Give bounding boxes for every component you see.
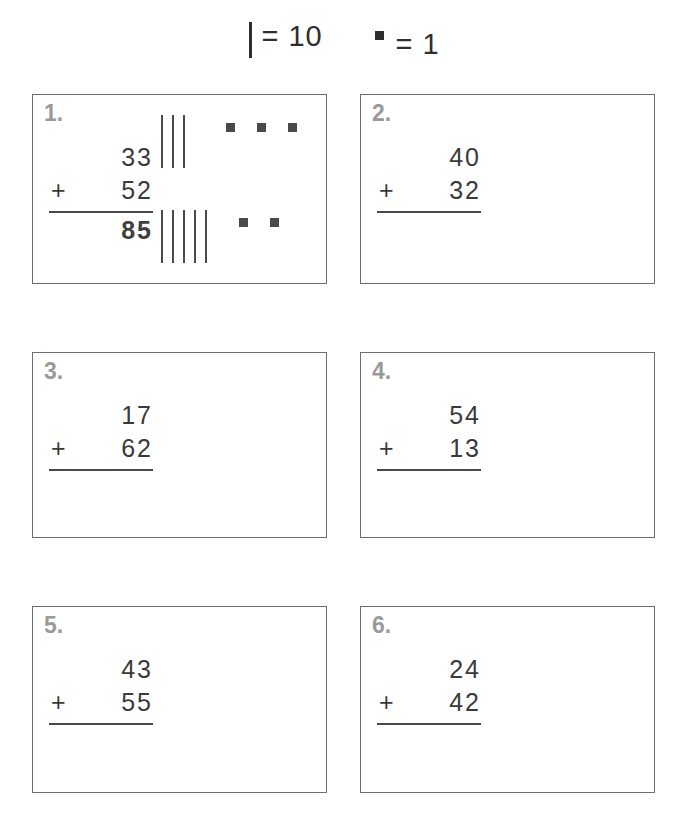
marks-row	[161, 115, 319, 187]
unit-square-icon	[226, 123, 235, 132]
plus-operator: +	[377, 176, 396, 205]
addend-row-top: 17	[49, 401, 153, 434]
second-addend: 52	[121, 176, 153, 205]
plus-operator: +	[377, 688, 396, 717]
addend-row-bottom: +13	[377, 434, 481, 467]
addend-row-top: 54	[377, 401, 481, 434]
problem-number-label: 6.	[372, 613, 391, 638]
problem-number-label: 2.	[372, 101, 391, 126]
tally-bar-icon	[161, 210, 163, 263]
unit-square-icon	[375, 31, 384, 40]
vertical-sum: 17+62	[49, 401, 153, 507]
first-addend: 24	[449, 655, 481, 684]
addend-row-bottom: +55	[49, 688, 153, 721]
legend-ones: = 1	[375, 22, 439, 59]
vertical-sum: 33+5285	[49, 143, 153, 249]
tally-bar-icon	[172, 115, 174, 168]
first-addend: 33	[121, 143, 153, 172]
tens-tally-group	[161, 115, 226, 168]
problem-box[interactable]: 1.33+5285	[32, 94, 327, 284]
vertical-sum: 43+55	[49, 655, 153, 761]
legend-ones-label: = 1	[395, 30, 439, 59]
tally-bar-icon	[205, 210, 207, 263]
vertical-sum: 54+13	[377, 401, 481, 507]
marks-row	[161, 210, 319, 282]
first-addend: 17	[121, 401, 153, 430]
addend-row-bottom: +52	[49, 176, 153, 209]
base-ten-marks	[161, 115, 319, 282]
tens-tally-group	[161, 210, 239, 263]
addend-row-top: 43	[49, 655, 153, 688]
sum-rule-line	[377, 469, 481, 471]
plus-operator: +	[49, 176, 68, 205]
sum-rule-line	[377, 211, 481, 213]
tally-bar-icon	[161, 115, 163, 168]
problem-box[interactable]: 4.54+13	[360, 352, 655, 538]
unit-square-icon	[288, 123, 297, 132]
addend-row-top: 40	[377, 143, 481, 176]
ones-unit-group	[239, 210, 301, 227]
second-addend: 62	[121, 434, 153, 463]
second-addend: 13	[449, 434, 481, 463]
vertical-sum: 24+42	[377, 655, 481, 761]
second-addend: 55	[121, 688, 153, 717]
tally-bar-icon	[183, 115, 185, 168]
first-addend: 54	[449, 401, 481, 430]
plus-operator: +	[49, 434, 68, 463]
unit-square-icon	[270, 218, 279, 227]
problem-box[interactable]: 6.24+42	[360, 606, 655, 793]
tally-bar-icon	[249, 22, 252, 58]
addend-row-bottom: +62	[49, 434, 153, 467]
problem-box[interactable]: 5.43+55	[32, 606, 327, 793]
sum-rule-line	[377, 723, 481, 725]
second-addend: 42	[449, 688, 481, 717]
second-addend: 32	[449, 176, 481, 205]
problem-box[interactable]: 2.40+32	[360, 94, 655, 284]
vertical-sum: 40+32	[377, 143, 481, 249]
problem-grid: 1.33+52852.40+323.17+624.54+135.43+556.2…	[32, 94, 655, 786]
tally-bar-icon	[172, 210, 174, 263]
problem-number-label: 1.	[44, 101, 63, 126]
plus-operator: +	[377, 434, 396, 463]
problem-number-label: 3.	[44, 359, 63, 384]
tally-bar-icon	[183, 210, 185, 263]
addend-row-top: 24	[377, 655, 481, 688]
legend-tens: = 10	[249, 22, 327, 58]
addend-row-bottom: +32	[377, 176, 481, 209]
first-addend: 43	[121, 655, 153, 684]
answer-field[interactable]: 85	[49, 216, 153, 249]
problem-number-label: 5.	[44, 613, 63, 638]
legend: = 10 = 1	[0, 10, 689, 70]
tally-bar-icon	[194, 210, 196, 263]
sum-rule-line	[49, 469, 153, 471]
unit-square-icon	[239, 218, 248, 227]
plus-operator: +	[49, 688, 68, 717]
first-addend: 40	[449, 143, 481, 172]
ones-unit-group	[226, 115, 319, 132]
sum-rule-line	[49, 211, 153, 213]
addend-row-bottom: +42	[377, 688, 481, 721]
addend-row-top: 33	[49, 143, 153, 176]
problem-box[interactable]: 3.17+62	[32, 352, 327, 538]
sum-rule-line	[49, 723, 153, 725]
legend-tens-label: = 10	[261, 22, 322, 51]
problem-number-label: 4.	[372, 359, 391, 384]
unit-square-icon	[257, 123, 266, 132]
